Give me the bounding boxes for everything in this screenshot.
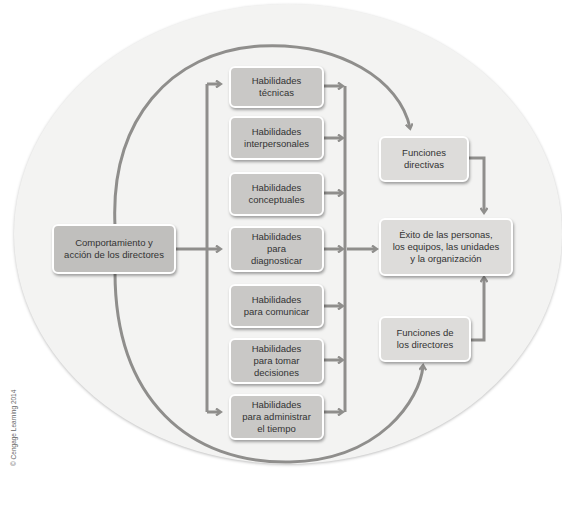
skill-label: Habilidades técnicas [252, 75, 302, 99]
functions-box-directive: Funciones directivas [379, 136, 469, 182]
skill-label: Habilidades para diagnosticar [251, 231, 302, 267]
skill-box-conceptual: Habilidades conceptuales [229, 172, 324, 216]
skill-label: Habilidades conceptuales [249, 182, 305, 206]
skill-label: Habilidades para administrar el tiempo [242, 399, 311, 435]
skill-box-technical: Habilidades técnicas [229, 66, 324, 108]
skill-box-interpersonal: Habilidades interpersonales [229, 116, 324, 160]
functions-managers-label: Funciones de los directores [396, 327, 453, 351]
skill-box-time-management: Habilidades para administrar el tiempo [229, 394, 324, 440]
skill-label: Habilidades para tomar decisiones [252, 343, 302, 379]
functions-directive-label: Funciones directivas [402, 147, 446, 171]
functions-box-managers: Funciones de los directores [379, 316, 471, 362]
source-box-label: Comportamiento y acción de los directore… [64, 237, 164, 261]
outcome-label: Éxito de las personas, los equipos, las … [393, 229, 500, 265]
skill-box-decision-making: Habilidades para tomar decisiones [229, 338, 324, 384]
skill-label: Habilidades interpersonales [244, 126, 309, 150]
skill-label: Habilidades para comunicar [244, 294, 309, 318]
outcome-box-success: Éxito de las personas, los equipos, las … [379, 218, 513, 276]
copyright-notice: © Cengage Learning 2014 [10, 390, 17, 466]
source-box-behavior: Comportamiento y acción de los directore… [52, 224, 176, 274]
skill-box-diagnostic: Habilidades para diagnosticar [229, 226, 324, 272]
skill-box-communication: Habilidades para comunicar [229, 284, 324, 328]
